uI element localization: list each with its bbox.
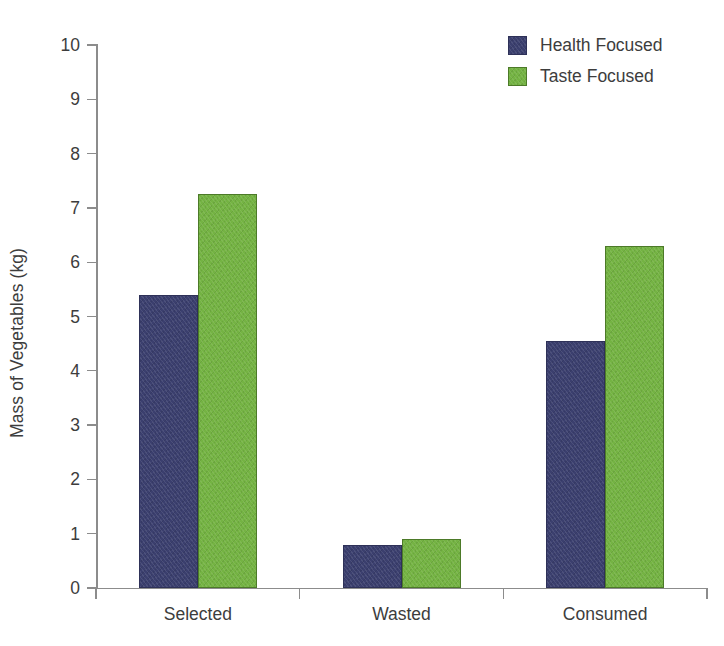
bar-texture [199, 195, 256, 587]
y-axis-tick [87, 479, 96, 480]
y-axis-tick [87, 370, 96, 371]
bar-wasted-taste-focused [402, 539, 461, 588]
bar-consumed-taste-focused [605, 246, 664, 588]
legend: Health FocusedTaste Focused [508, 30, 663, 92]
legend-swatch-icon [508, 36, 527, 55]
bar-texture [403, 540, 460, 587]
x-axis-tick [706, 588, 707, 599]
y-axis-tick [87, 424, 96, 425]
y-axis-tick [87, 207, 96, 208]
y-axis-tick-label: 1 [40, 523, 80, 544]
bar-texture [344, 546, 401, 587]
y-axis-title-label: Mass of Vegetables (kg) [7, 248, 28, 438]
y-axis-tick [87, 262, 96, 263]
y-axis-tick-label: 3 [40, 415, 80, 436]
bar-chart: Mass of Vegetables (kg) 012345678910 Sel… [0, 0, 724, 646]
y-axis-tick [87, 99, 96, 100]
legend-swatch-icon [508, 67, 527, 86]
y-axis-tick [87, 316, 96, 317]
bar-texture [140, 296, 197, 587]
legend-swatch-texture [509, 68, 526, 85]
legend-label: Taste Focused [540, 66, 654, 87]
y-axis-tick-label: 4 [40, 360, 80, 381]
legend-label: Health Focused [540, 35, 663, 56]
x-axis-label-consumed: Consumed [505, 604, 705, 625]
y-axis-title: Mass of Vegetables (kg) [0, 0, 34, 646]
x-axis-tick [299, 588, 300, 599]
bar-selected-health-focused [139, 295, 198, 588]
y-axis-tick-label: 2 [40, 469, 80, 490]
y-axis-tick-label: 5 [40, 306, 80, 327]
x-axis-label-wasted: Wasted [302, 604, 502, 625]
legend-item-health-focused[interactable]: Health Focused [508, 30, 663, 61]
x-axis-label-selected: Selected [98, 604, 298, 625]
bar-wasted-health-focused [343, 545, 402, 588]
y-axis-tick-label: 8 [40, 143, 80, 164]
y-axis-tick-label: 7 [40, 197, 80, 218]
y-axis-tick [87, 153, 96, 154]
bar-consumed-health-focused [546, 341, 605, 588]
y-axis-tick-label: 6 [40, 252, 80, 273]
y-axis-line [96, 44, 98, 589]
y-axis-tick-label: 0 [40, 578, 80, 599]
bar-texture [606, 247, 663, 587]
y-axis-tick [87, 533, 96, 534]
bar-texture [547, 342, 604, 587]
bar-selected-taste-focused [198, 194, 257, 588]
legend-swatch-texture [509, 37, 526, 54]
x-axis-tick [95, 588, 96, 599]
y-axis-tick [87, 44, 96, 45]
x-axis-tick [503, 588, 504, 599]
legend-item-taste-focused[interactable]: Taste Focused [508, 61, 663, 92]
y-axis-tick-label: 10 [40, 35, 80, 56]
y-axis-tick-label: 9 [40, 89, 80, 110]
